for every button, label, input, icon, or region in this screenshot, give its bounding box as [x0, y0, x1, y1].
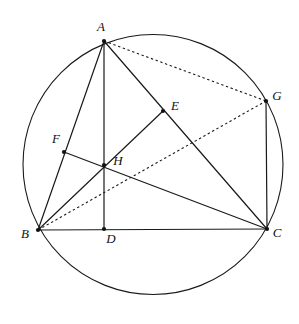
vertex-dot-g	[264, 99, 268, 103]
vertex-label-a: A	[96, 19, 105, 34]
vertex-label-g: G	[272, 88, 282, 103]
vertex-label-f: F	[51, 131, 61, 146]
solid-segment-group	[38, 41, 267, 230]
vertex-label-b: B	[21, 226, 29, 241]
segment-bc	[38, 229, 267, 230]
segment-bg	[38, 101, 266, 230]
vertex-dot-h	[102, 163, 106, 167]
vertex-label-h: H	[112, 153, 123, 168]
geometry-canvas: ABCDEFGH	[0, 0, 299, 324]
dashed-segment-group	[38, 41, 266, 230]
segment-gc	[266, 101, 267, 229]
vertex-dot-a	[102, 39, 106, 43]
segment-ag	[104, 41, 266, 101]
vertex-dot-b	[36, 228, 40, 232]
vertex-dot-f	[62, 150, 66, 154]
vertex-label-e: E	[170, 98, 179, 113]
vertex-dot-e	[161, 109, 165, 113]
geometry-figure: ABCDEFGH	[0, 0, 299, 324]
segment-ab	[38, 41, 104, 230]
segment-fc	[64, 152, 267, 229]
segment-ac	[104, 41, 267, 229]
vertex-label-d: D	[105, 231, 116, 246]
vertex-dot-c	[265, 227, 269, 231]
vertex-label-c: C	[273, 225, 282, 240]
vertex-label-group: ABCDEFGH	[21, 19, 282, 246]
